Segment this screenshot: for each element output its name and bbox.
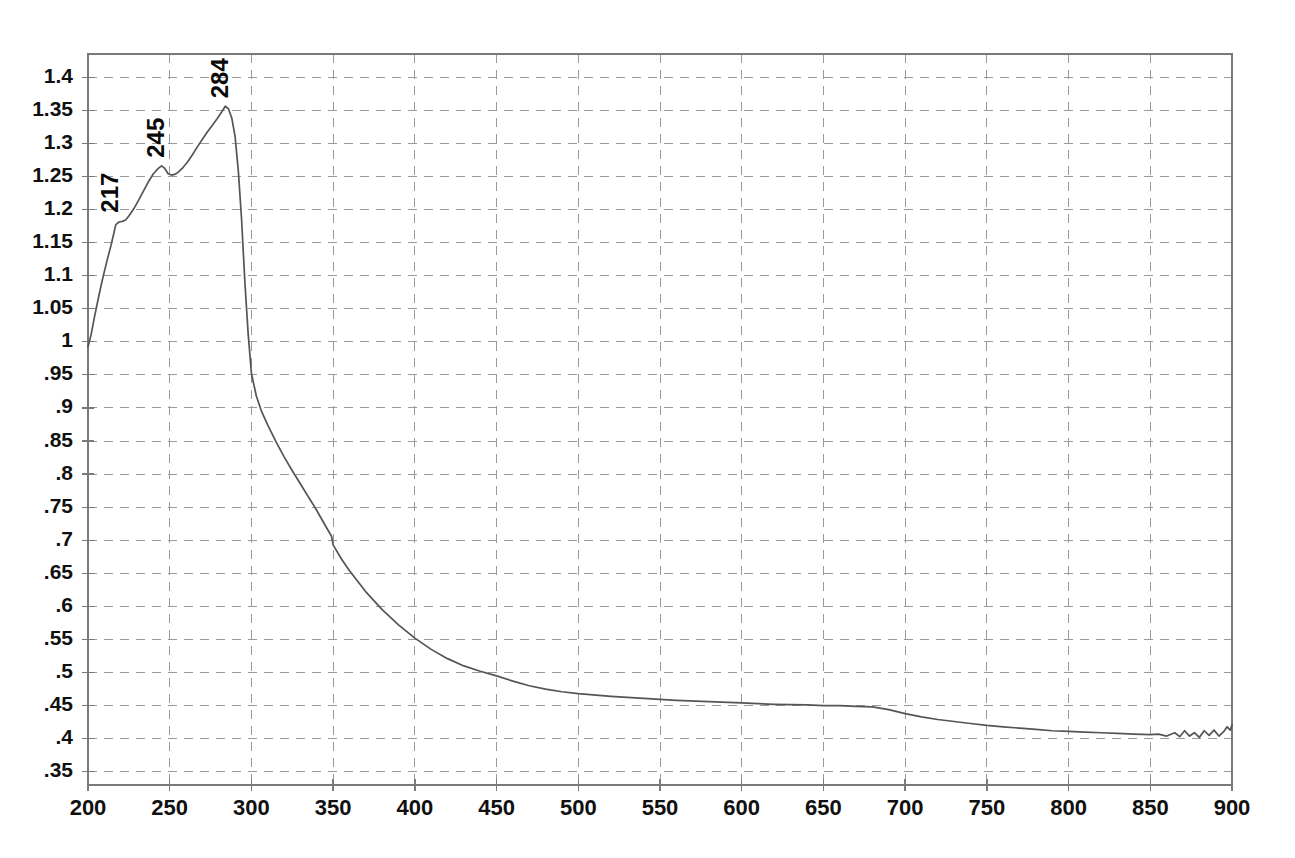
peak-label-245: 245 — [142, 118, 169, 158]
y-tick-label: .9 — [55, 394, 73, 417]
y-tick-label: .7 — [55, 527, 73, 550]
x-tick-label: 600 — [723, 795, 760, 820]
y-tick-label: .5 — [55, 659, 73, 682]
y-tick-label: 1.05 — [32, 295, 73, 318]
x-tick-label: 800 — [1050, 795, 1087, 820]
peak-annotations: 217245284 — [96, 58, 233, 213]
y-tick-label: .45 — [44, 692, 74, 715]
spectrum-plot-svg: .35.4.45.5.55.6.65.7.75.8.85.9.9511.051.… — [0, 0, 1295, 858]
y-tick-label: .85 — [44, 428, 74, 451]
y-tick-label: 1.1 — [44, 262, 74, 285]
y-tick-label: .65 — [44, 560, 74, 583]
x-tick-label: 300 — [233, 795, 270, 820]
x-tick-label: 650 — [805, 795, 842, 820]
peak-label-284: 284 — [206, 58, 233, 99]
y-tick-label: 1.4 — [44, 64, 74, 87]
x-tick-label: 850 — [1132, 795, 1169, 820]
plot-frame — [88, 54, 1232, 785]
spectrum-chart: .35.4.45.5.55.6.65.7.75.8.85.9.9511.051.… — [0, 0, 1295, 858]
y-tick-label: .75 — [44, 494, 74, 517]
x-tick-label: 250 — [151, 795, 188, 820]
x-tick-label: 550 — [642, 795, 679, 820]
y-tick-label: 1.2 — [44, 196, 73, 219]
y-tick-label: 1 — [61, 328, 73, 351]
y-tick-label: 1.35 — [32, 97, 73, 120]
x-tick-label: 450 — [478, 795, 515, 820]
x-tick-label: 750 — [968, 795, 1005, 820]
tick-marks — [82, 77, 1232, 791]
y-tick-label: 1.15 — [32, 229, 73, 252]
y-tick-label: .6 — [55, 593, 73, 616]
y-axis-tick-labels: .35.4.45.5.55.6.65.7.75.8.85.9.9511.051.… — [32, 64, 73, 782]
y-tick-label: .4 — [55, 725, 73, 748]
x-axis-tick-labels: 2002503003504004505005506006507007508008… — [70, 795, 1251, 820]
x-tick-label: 900 — [1214, 795, 1251, 820]
y-tick-label: 1.25 — [32, 163, 73, 186]
y-tick-label: .8 — [55, 461, 73, 484]
y-tick-label: .35 — [44, 758, 74, 781]
x-tick-label: 350 — [315, 795, 352, 820]
x-tick-label: 400 — [396, 795, 433, 820]
x-tick-label: 700 — [887, 795, 924, 820]
y-tick-label: .95 — [44, 361, 74, 384]
x-tick-label: 200 — [70, 795, 107, 820]
y-tick-label: .55 — [44, 626, 74, 649]
grid-lines — [88, 54, 1232, 785]
peak-label-217: 217 — [96, 173, 123, 213]
y-tick-label: 1.3 — [44, 130, 73, 153]
x-tick-label: 500 — [560, 795, 597, 820]
